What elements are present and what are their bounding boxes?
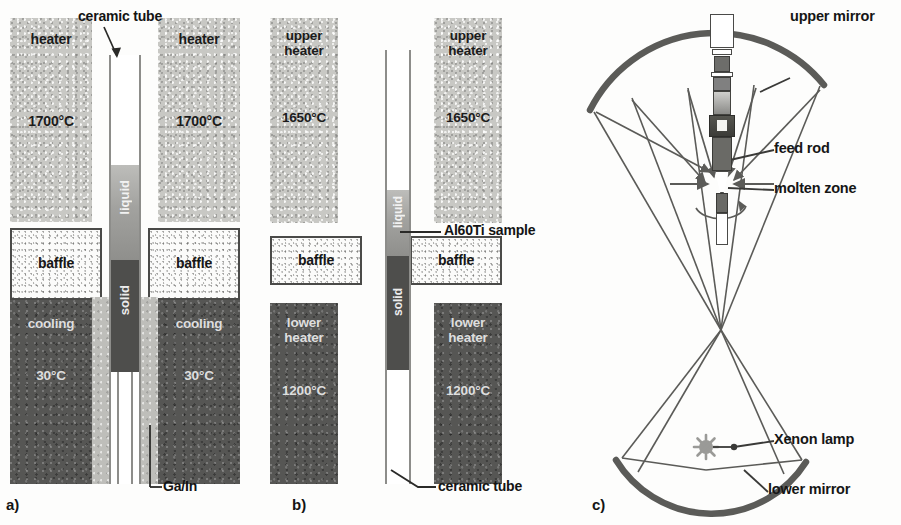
panel-b-sample-label: Al60Ti sample: [444, 222, 535, 238]
heater-left-temp: 1700°C: [28, 114, 74, 130]
panel-c-xenon-lamp-label: Xenon lamp: [774, 431, 854, 447]
upper-heater-right-temp: 1650°C: [446, 110, 490, 125]
seed-holder: [716, 213, 728, 245]
panel-b-solid-label: solid: [392, 288, 404, 316]
cooling-left-name: cooling: [28, 316, 75, 331]
cooling-right-temp: 30°C: [184, 368, 213, 383]
baffle-right-label: baffle: [176, 256, 212, 272]
panel-a-gain-right: [141, 297, 158, 484]
heater-right-temp: 1700°C: [176, 114, 222, 130]
panel-b-tube-interior: [387, 50, 409, 190]
panel-b-upper-heater-right: upper heater 1650°C: [434, 18, 502, 223]
heater-left-name: heater: [31, 32, 72, 48]
heater-right-name: heater: [179, 32, 220, 48]
panel-b-baffle-left-label: baffle: [298, 253, 334, 269]
panel-b-ceramic-tube-label: ceramic tube: [438, 478, 522, 494]
baffle-left-label: baffle: [38, 256, 74, 272]
rod-shaft-upper: [714, 56, 730, 72]
panel-a-gradient-furnace: heater 1700°C heater 1700°C cooling 30°C…: [0, 0, 255, 525]
panel-c-letter: c): [592, 496, 605, 513]
panel-c-rod-assembly: [706, 14, 738, 244]
panel-a-tube-lower-interior: [111, 372, 139, 484]
panel-b-liquid-label: liquid: [392, 196, 404, 228]
panel-c-molten-zone-label: molten zone: [774, 180, 856, 196]
panel-a-ceramic-tube-label: ceramic tube: [78, 8, 162, 24]
cooling-right-name: cooling: [176, 316, 223, 331]
panel-c-upper-mirror-label: upper mirror: [790, 8, 875, 24]
panel-a-capillary-wall-left: [117, 372, 119, 484]
panel-c-lower-mirror-label: lower mirror: [768, 481, 850, 497]
panel-b-letter: b): [292, 496, 306, 513]
panel-a-cooling-right: cooling 30°C: [158, 293, 240, 484]
panel-a-gain-label: Ga/In: [163, 478, 197, 494]
feed-rod-body: [713, 91, 731, 115]
panel-a-heater-right: heater 1700°C: [158, 18, 240, 222]
seed-rod: [716, 193, 728, 213]
panel-a-liquid-label: liquid: [118, 180, 131, 215]
grown-crystal-taper: [715, 171, 729, 193]
lower-heater-right-temp: 1200°C: [446, 383, 490, 398]
upper-heater-left-name: upper heater: [284, 28, 323, 58]
panel-b-tube-wall-right: [409, 50, 411, 484]
panel-c-feed-rod-label: feed rod: [774, 140, 830, 156]
grown-crystal-upper: [712, 137, 732, 171]
xenon-lamp-icon: [694, 435, 718, 459]
panel-b-tube-lower-interior: [387, 370, 409, 484]
rod-top-holder: [710, 14, 734, 48]
panel-a-solid-label: solid: [118, 285, 131, 315]
cooling-left-temp: 30°C: [36, 368, 65, 383]
molten-zone-bright-core: [717, 120, 727, 131]
panel-a-letter: a): [6, 496, 19, 513]
panel-a-tube-wall-right: [139, 55, 141, 484]
panel-a-cooling-left: cooling 30°C: [10, 293, 92, 484]
panel-b-upper-heater-left: upper heater 1650°C: [270, 18, 338, 223]
panel-c-mirror-furnace: upper mirror feed rod molten zone Xenon …: [578, 0, 901, 525]
upper-heater-right-name: upper heater: [448, 28, 487, 58]
figure-root: heater 1700°C heater 1700°C cooling 30°C…: [0, 0, 901, 525]
panel-b-lower-heater-left: lower heater 1200°C: [270, 303, 338, 484]
panel-a-gain-left: [92, 297, 109, 484]
panel-a-solid-zone: [111, 260, 139, 372]
panel-b-baffle-right-label: baffle: [438, 253, 474, 269]
panel-b-two-zone-furnace: upper heater 1650°C upper heater 1650°C …: [248, 0, 578, 525]
panel-a-capillary-wall-right: [131, 372, 133, 484]
rod-collar-1: [712, 49, 732, 55]
panel-b-lower-heater-right: lower heater 1200°C: [434, 303, 502, 484]
panel-a-tube-interior: [111, 55, 139, 165]
lower-heater-left-temp: 1200°C: [282, 383, 326, 398]
panel-b-baffle-right: baffle: [410, 236, 502, 285]
panel-a-heater-left: heater 1700°C: [10, 18, 92, 222]
rod-shaft-mid: [713, 77, 731, 91]
panel-b-baffle-left: baffle: [270, 236, 362, 285]
lower-heater-left-name: lower heater: [284, 315, 323, 345]
panel-a-baffle-left: baffle: [10, 228, 102, 300]
lower-heater-right-name: lower heater: [448, 315, 487, 345]
panel-a-baffle-right: baffle: [148, 228, 240, 300]
upper-heater-left-temp: 1650°C: [282, 110, 326, 125]
